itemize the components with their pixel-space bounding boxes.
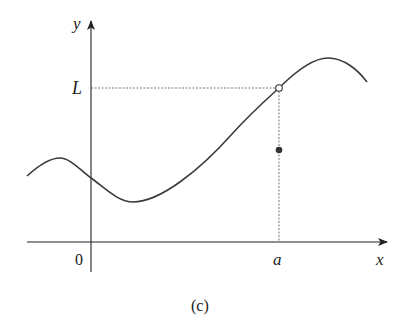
limit-L-label: L xyxy=(71,78,82,98)
open-circle-point xyxy=(276,85,283,92)
x-axis-label: x xyxy=(375,250,384,269)
filled-dot-point xyxy=(276,147,283,154)
origin-label: 0 xyxy=(75,251,83,268)
figure-caption: (c) xyxy=(191,297,209,315)
point-a-label: a xyxy=(273,250,282,269)
limit-diagram: y L 0 a x (c) xyxy=(0,0,406,334)
y-axis-label: y xyxy=(71,14,81,33)
